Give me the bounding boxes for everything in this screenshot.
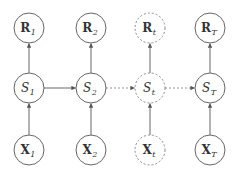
reward-node-1: R1 [14,13,44,43]
state-node-1: S1 [14,73,44,103]
reward-node-T: RT [195,13,225,43]
graphical-model-diagram: R1S1X1R2S2X2RtStXtRTSTXT [0,0,237,175]
input-node-2: X2 [76,135,106,165]
input-node-T: XT [195,135,225,165]
state-node-t: St [135,73,165,103]
reward-node-2: R2 [76,13,106,43]
nodes: R1S1X1R2S2X2RtStXtRTSTXT [14,13,225,165]
input-node-t: Xt [135,135,165,165]
state-node-T: ST [195,73,225,103]
reward-node-t: Rt [135,13,165,43]
state-node-2: S2 [76,73,106,103]
edges [29,44,210,136]
input-node-1: X1 [14,135,44,165]
